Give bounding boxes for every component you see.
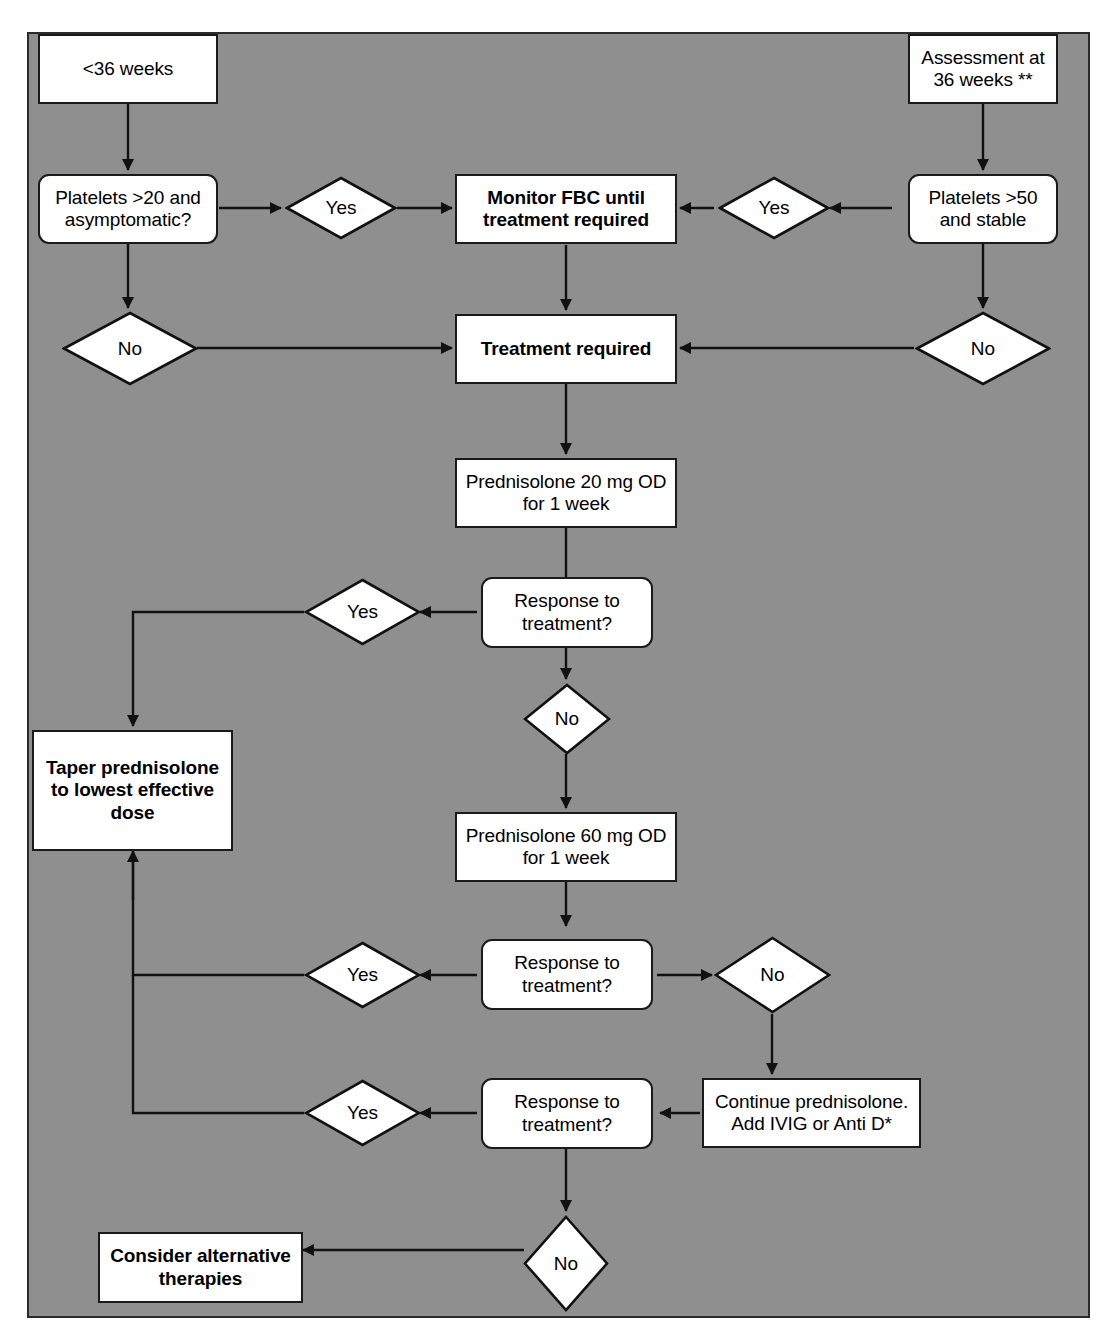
decision-no-low[interactable]: No xyxy=(714,936,831,1014)
node-lt-36-weeks[interactable]: <36 weeks xyxy=(38,34,218,104)
decision-label: Yes xyxy=(347,1102,378,1124)
node-label: Platelets >20 and asymptomatic? xyxy=(40,187,216,232)
decision-yes-bottom[interactable]: Yes xyxy=(304,1079,421,1147)
decision-no-left-top[interactable]: No xyxy=(62,311,198,386)
node-label: Response to treatment? xyxy=(483,952,651,997)
node-label: Continue prednisolone. Add IVIG or Anti … xyxy=(704,1091,919,1136)
node-label: Consider alternative therapies xyxy=(100,1245,301,1290)
node-label: Treatment required xyxy=(477,338,655,360)
decision-yes-low[interactable]: Yes xyxy=(304,941,421,1009)
decision-label: No xyxy=(555,708,579,730)
node-platelets-50[interactable]: Platelets >50 and stable xyxy=(908,174,1058,244)
node-label: Response to treatment? xyxy=(483,590,651,635)
decision-yes-right-top[interactable]: Yes xyxy=(718,176,830,240)
node-label: <36 weeks xyxy=(79,58,177,80)
node-label: Prednisolone 20 mg OD for 1 week xyxy=(457,471,675,516)
node-label: Monitor FBC until treatment required xyxy=(457,187,675,232)
node-label: Prednisolone 60 mg OD for 1 week xyxy=(457,825,675,870)
node-continue-prednisolone[interactable]: Continue prednisolone. Add IVIG or Anti … xyxy=(702,1078,921,1148)
decision-label: No xyxy=(118,338,142,360)
node-label: Assessment at 36 weeks ** xyxy=(910,47,1056,92)
node-taper-prednisolone[interactable]: Taper prednisolone to lowest effective d… xyxy=(32,730,233,851)
node-label: Platelets >50 and stable xyxy=(910,187,1056,232)
decision-label: Yes xyxy=(759,197,790,219)
node-treatment-required[interactable]: Treatment required xyxy=(455,314,677,384)
decision-label: No xyxy=(554,1253,578,1275)
decision-no-right-top[interactable]: No xyxy=(915,311,1051,386)
node-prednisolone-20mg[interactable]: Prednisolone 20 mg OD for 1 week xyxy=(455,458,677,528)
node-response-to-treatment-1[interactable]: Response to treatment? xyxy=(481,577,653,648)
node-response-to-treatment-2[interactable]: Response to treatment? xyxy=(481,939,653,1010)
decision-no-bottom[interactable]: No xyxy=(523,1215,609,1312)
node-consider-alternative-therapies[interactable]: Consider alternative therapies xyxy=(98,1232,303,1303)
decision-no-mid[interactable]: No xyxy=(523,683,611,755)
node-response-to-treatment-3[interactable]: Response to treatment? xyxy=(481,1078,653,1149)
node-prednisolone-60mg[interactable]: Prednisolone 60 mg OD for 1 week xyxy=(455,812,677,882)
flowchart-canvas: <36 weeks Assessment at 36 weeks ** Plat… xyxy=(0,0,1111,1335)
node-monitor-fbc[interactable]: Monitor FBC until treatment required xyxy=(455,174,677,244)
decision-label: Yes xyxy=(347,601,378,623)
decision-label: Yes xyxy=(326,197,357,219)
decision-label: Yes xyxy=(347,964,378,986)
decision-yes-left-top[interactable]: Yes xyxy=(285,176,397,240)
node-assessment-36-weeks[interactable]: Assessment at 36 weeks ** xyxy=(908,34,1058,104)
decision-label: No xyxy=(760,964,784,986)
node-label: Response to treatment? xyxy=(483,1091,651,1136)
decision-label: No xyxy=(971,338,995,360)
decision-yes-mid[interactable]: Yes xyxy=(304,578,421,646)
node-platelets-20[interactable]: Platelets >20 and asymptomatic? xyxy=(38,174,218,244)
node-label: Taper prednisolone to lowest effective d… xyxy=(34,757,231,824)
